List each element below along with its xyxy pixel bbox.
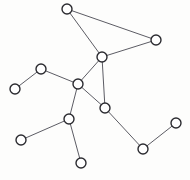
graph-node[interactable] bbox=[76, 158, 86, 168]
graph-node[interactable] bbox=[138, 144, 148, 154]
graph-node[interactable] bbox=[151, 35, 161, 45]
graph-node[interactable] bbox=[97, 52, 107, 62]
graph-edge bbox=[102, 62, 104, 103]
graph-node[interactable] bbox=[64, 114, 74, 124]
graph-edge bbox=[147, 126, 172, 146]
graph-node[interactable] bbox=[16, 135, 26, 145]
node-layer bbox=[10, 4, 181, 168]
graph-canvas bbox=[0, 0, 190, 180]
graph-edge bbox=[26, 121, 65, 138]
graph-edge bbox=[70, 89, 77, 114]
graph-edge bbox=[46, 71, 74, 82]
graph-node[interactable] bbox=[73, 79, 83, 89]
graph-edge bbox=[107, 42, 151, 56]
graph-node[interactable] bbox=[10, 84, 20, 94]
graph-edge bbox=[72, 11, 152, 39]
graph-node[interactable] bbox=[100, 103, 110, 113]
graph-node[interactable] bbox=[171, 118, 181, 128]
graph-node[interactable] bbox=[62, 4, 72, 14]
graph-node[interactable] bbox=[36, 64, 46, 74]
graph-edge bbox=[19, 72, 37, 86]
graph-edge bbox=[82, 87, 102, 104]
graph-edge bbox=[81, 61, 98, 81]
graph-edge bbox=[108, 112, 139, 146]
edge-layer bbox=[19, 11, 172, 159]
graph-edge bbox=[70, 124, 79, 158]
graph-figure bbox=[0, 0, 190, 180]
